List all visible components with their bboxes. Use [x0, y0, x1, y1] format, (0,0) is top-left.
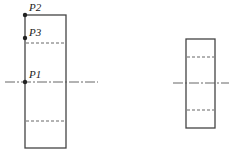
- label-p3: P3: [28, 26, 42, 38]
- point-p2: [23, 13, 27, 17]
- label-p2: P2: [28, 1, 42, 13]
- right-view: [173, 39, 229, 128]
- diagram-canvas: P2 P3 P1: [0, 0, 232, 161]
- point-p3: [23, 36, 27, 40]
- right-rectangle: [186, 39, 215, 128]
- label-p1: P1: [28, 68, 41, 80]
- left-view: P2 P3 P1: [5, 1, 98, 148]
- point-p1: [23, 80, 27, 84]
